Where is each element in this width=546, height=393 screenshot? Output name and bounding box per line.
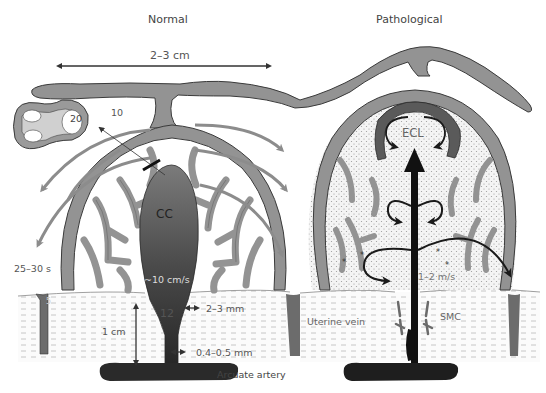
normal-panel-title: Normal — [148, 14, 188, 25]
ecl-label: ECL — [402, 128, 424, 140]
uterine-vein-right — [508, 294, 520, 356]
placenta-flow-diagram: ** ** — [0, 0, 546, 393]
arcuate-artery-pathological — [344, 363, 459, 381]
depth-label: 1 cm — [102, 327, 126, 337]
segment-5-label: 5 — [46, 298, 51, 306]
transit-time-label: 25–30 s — [14, 264, 51, 274]
smc-label: SMC — [440, 312, 461, 322]
uterine-vein-label: Uterine vein — [307, 317, 365, 327]
svg-text:*: * — [360, 251, 364, 260]
svg-text:*: * — [342, 258, 346, 267]
villus-number-10: 10 — [111, 108, 123, 118]
segment-12-label: 12 — [160, 308, 174, 319]
villus-number-20: 20 — [70, 114, 82, 124]
artery-diameter-upper: 2–3 mm — [206, 304, 244, 314]
central-cavity-label: CC — [156, 208, 173, 220]
svg-text:*: * — [445, 261, 449, 270]
diagram-canvas: ** ** Normal Pathological 2–3 cm 20 10 C… — [0, 0, 546, 393]
villus-cross-section — [14, 100, 89, 149]
flow-velocity-pathological: 1–2 m/s — [418, 272, 455, 282]
width-span-label: 2–3 cm — [150, 50, 190, 61]
svg-text:*: * — [436, 248, 440, 257]
artery-diameter-lower: 0.4–0.5 mm — [196, 348, 253, 358]
myometrium — [18, 289, 540, 362]
flow-velocity-normal: ~10 cm/s — [144, 275, 190, 285]
arcuate-artery-label: Arcuate artery — [217, 370, 286, 380]
pathological-panel-title: Pathological — [376, 14, 443, 25]
